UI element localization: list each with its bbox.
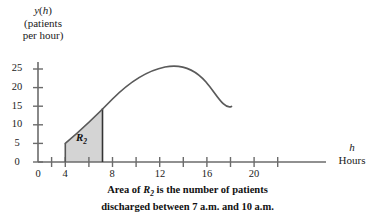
x-tick-label-0: 0	[28, 168, 48, 179]
caption-suffix: is the number of patients	[154, 184, 268, 195]
region-label-subscript: 2	[83, 137, 87, 146]
discharge-rate-chart: y(h) (patients per hour) h Hours	[0, 0, 375, 220]
region-label-r2: R2	[76, 131, 87, 146]
x-tick-label-8: 8	[102, 168, 122, 179]
y-tick-label-15: 15	[6, 100, 28, 111]
y-tick-label-5: 5	[6, 137, 28, 148]
caption-prefix: Area of	[107, 184, 143, 195]
y-tick-label-20: 20	[6, 81, 28, 92]
x-tick-label-16: 16	[197, 168, 217, 179]
x-tick-label-20: 20	[244, 168, 264, 179]
y-tick-label-10: 10	[6, 118, 28, 129]
y-tick-label-25: 25	[6, 62, 28, 73]
figure-caption-line1: Area of R2 is the number of patients	[0, 183, 375, 200]
figure-caption: Area of R2 is the number of patients dis…	[0, 183, 375, 213]
x-tick-label-12: 12	[150, 168, 170, 179]
figure-caption-line2: discharged between 7 a.m. and 10 a.m.	[0, 200, 375, 213]
x-tick-label-4: 4	[55, 168, 75, 179]
y-tick-label-0: 0	[6, 156, 28, 167]
